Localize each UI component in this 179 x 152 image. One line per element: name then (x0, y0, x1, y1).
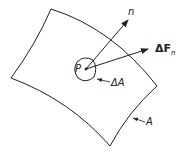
surface-label: A (146, 117, 153, 127)
surface-outline (11, 9, 157, 146)
force-label-text: ΔF (155, 42, 171, 55)
area-element-label: ΔA (111, 78, 125, 88)
normal-label: n (128, 7, 134, 17)
force-label-subscript: n (171, 49, 175, 57)
point-label: P (75, 64, 81, 74)
force-vector (86, 49, 148, 69)
surface-diagram (0, 0, 179, 152)
surface-leader (133, 118, 145, 122)
force-label: ΔFn (155, 43, 175, 57)
area-element-leader (97, 79, 110, 82)
